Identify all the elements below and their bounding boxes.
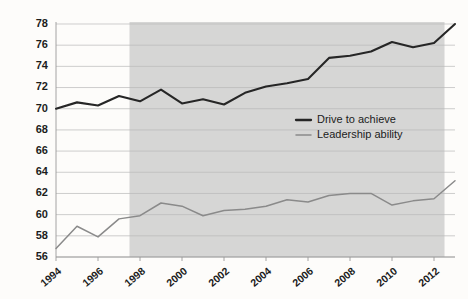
y-tick-label: 68 bbox=[36, 123, 48, 135]
chart-canvas: 5658606264666870727476781994199619982000… bbox=[0, 0, 468, 299]
y-tick-label: 76 bbox=[36, 38, 48, 50]
y-tick-label: 60 bbox=[36, 208, 48, 220]
legend-label-0: Drive to achieve bbox=[317, 113, 396, 125]
y-tick-label: 78 bbox=[36, 17, 48, 29]
legend-label-1: Leadership ability bbox=[317, 128, 403, 140]
y-tick-label: 66 bbox=[36, 144, 48, 156]
y-tick-label: 62 bbox=[36, 186, 48, 198]
y-tick-label: 56 bbox=[36, 250, 48, 262]
line-chart: 5658606264666870727476781994199619982000… bbox=[0, 0, 468, 299]
y-tick-label: 72 bbox=[36, 80, 48, 92]
y-tick-label: 74 bbox=[36, 59, 49, 71]
y-tick-label: 58 bbox=[36, 229, 48, 241]
y-tick-label: 64 bbox=[36, 165, 49, 177]
y-tick-label: 70 bbox=[36, 102, 48, 114]
